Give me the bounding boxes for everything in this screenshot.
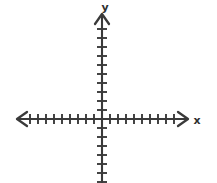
coordinate-plane-figure: y x — [0, 0, 217, 183]
axes-canvas: y x — [0, 0, 217, 183]
y-axis-label: y — [101, 1, 108, 14]
x-axis-label: x — [193, 114, 200, 127]
